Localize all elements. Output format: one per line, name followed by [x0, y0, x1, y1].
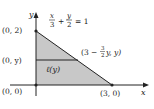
label-right-point: (3 − 3 2 y, y)	[81, 45, 121, 58]
point-origin	[34, 83, 37, 86]
y-axis-arrow-icon	[34, 12, 39, 18]
svg-text:+: +	[58, 17, 64, 26]
svg-text:= 1: = 1	[75, 17, 88, 26]
label-left-point: (0, y)	[2, 56, 22, 65]
svg-text:3: 3	[50, 21, 54, 29]
svg-text:3: 3	[101, 45, 105, 51]
segment-label: ℓ(y)	[46, 65, 60, 74]
line-equation: x 3 + y 2 = 1	[49, 12, 88, 29]
svg-text:x: x	[50, 12, 54, 20]
label-origin: (0, 0)	[2, 87, 22, 96]
svg-text:y, y): y, y)	[105, 48, 121, 57]
y-axis-label: y	[28, 10, 34, 19]
x-axis-arrow-icon	[143, 83, 149, 88]
svg-text:(3 −: (3 −	[81, 48, 97, 57]
svg-text:2: 2	[101, 52, 105, 58]
point-x-intercept	[110, 83, 113, 86]
diagram: y x (0, 2) (0, y) (0, 0) (3, 0) x 3 + y …	[0, 0, 154, 109]
x-axis-label: x	[141, 88, 146, 97]
label-y-intercept: (0, 2)	[2, 26, 22, 35]
svg-text:y: y	[66, 12, 72, 20]
label-x-intercept: (3, 0)	[100, 89, 120, 98]
point-y-intercept	[34, 29, 37, 32]
svg-text:2: 2	[67, 21, 71, 29]
